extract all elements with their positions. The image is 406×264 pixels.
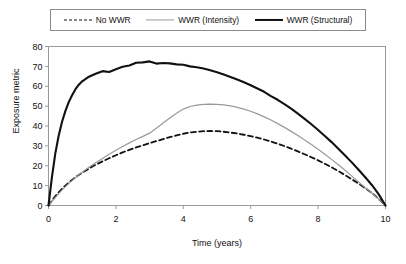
y-tick-label: 20 [32, 161, 42, 171]
x-tick-label: 6 [248, 214, 253, 224]
data-series-group [49, 61, 386, 205]
y-tick-label: 40 [32, 121, 42, 131]
series-line-wwr-intensity [49, 104, 386, 205]
x-tick-label: 10 [380, 214, 390, 224]
y-tick-label: 60 [32, 81, 42, 91]
y-tick-label: 30 [32, 141, 42, 151]
y-axis-ticks: 01020304050607080 [32, 42, 48, 211]
y-tick-label: 80 [32, 42, 42, 52]
x-tick-label: 0 [46, 214, 51, 224]
x-tick-label: 8 [316, 214, 321, 224]
x-tick-label: 2 [113, 214, 118, 224]
series-line-no-wwr [49, 131, 386, 206]
series-line-wwr-structural [49, 61, 386, 205]
plot-area: 01020304050607080 0246810 [0, 0, 406, 264]
y-tick-label: 10 [32, 181, 42, 191]
x-tick-label: 4 [181, 214, 186, 224]
y-tick-label: 70 [32, 62, 42, 72]
plot-frame [49, 47, 386, 206]
y-tick-label: 50 [32, 101, 42, 111]
y-tick-label: 0 [37, 201, 42, 211]
x-axis-ticks: 0246810 [46, 206, 391, 224]
chart-figure: No WWR WWR (Intensity) WWR (Structural) … [0, 0, 406, 264]
